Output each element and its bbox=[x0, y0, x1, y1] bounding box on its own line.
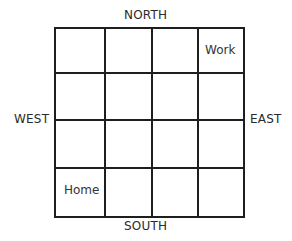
home-cell-label: Home bbox=[64, 183, 99, 197]
west-label: WEST bbox=[14, 112, 49, 126]
grid-line-h1 bbox=[54, 72, 245, 74]
grid-line-v0 bbox=[54, 27, 56, 218]
grid-line-h0 bbox=[54, 27, 245, 29]
city-grid: Work Home bbox=[54, 27, 243, 216]
grid-line-h2 bbox=[54, 119, 245, 121]
grid-line-h4 bbox=[54, 216, 245, 218]
east-label: EAST bbox=[250, 112, 282, 126]
grid-line-h3 bbox=[54, 167, 245, 169]
grid-line-v2 bbox=[151, 27, 153, 218]
south-label: SOUTH bbox=[124, 219, 167, 233]
grid-line-v3 bbox=[197, 27, 199, 218]
grid-line-v1 bbox=[104, 27, 106, 218]
north-label: NORTH bbox=[124, 8, 167, 22]
work-cell-label: Work bbox=[205, 43, 235, 57]
grid-line-v4 bbox=[243, 27, 245, 218]
